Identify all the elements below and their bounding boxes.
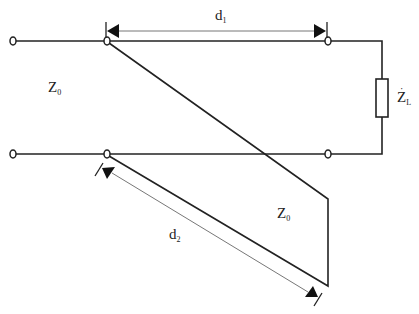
arrowhead-start-icon — [102, 167, 115, 179]
terminal-load-bottom — [325, 150, 331, 158]
arrowhead-right-icon — [314, 24, 326, 38]
arrowhead-left-icon — [107, 24, 119, 38]
label-d2: d2 — [169, 227, 181, 244]
terminal-stub-top — [104, 37, 110, 45]
load-bottom-wire — [331, 117, 382, 154]
terminal-load-top — [325, 37, 331, 45]
label-z0-stub: Z0 — [277, 206, 290, 223]
terminal-left-top — [10, 37, 16, 45]
label-z0-main: Z0 — [48, 80, 61, 97]
stub-matching-diagram: Z0 Z0 ·ZL d1 d2 — [0, 0, 419, 314]
label-d1: d1 — [215, 8, 227, 25]
terminal-stub-bottom — [104, 150, 110, 158]
d2-dimension-arrow — [95, 163, 322, 306]
terminal-left-bottom — [10, 150, 16, 158]
load-top-wire — [331, 41, 382, 79]
terminals — [10, 37, 331, 158]
short-circuit-stub — [109, 43, 328, 286]
circuit-drawing — [0, 0, 419, 314]
label-load-impedance: ·ZL — [397, 90, 411, 107]
load-impedance-box — [376, 79, 388, 117]
